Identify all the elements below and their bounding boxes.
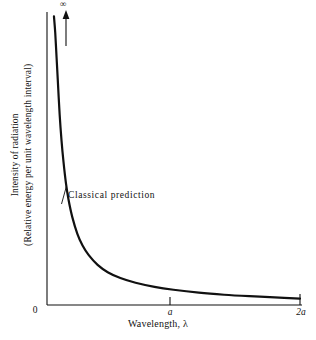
x-tick-label-0: 0 [28, 305, 42, 315]
x-axis-label: Wavelength, λ [0, 318, 316, 329]
infinity-symbol: ∞ [60, 0, 66, 9]
chart-plot-area [0, 0, 316, 340]
x-tick-label-a: a [163, 307, 177, 317]
x-tick-label-2a: 2a [292, 307, 310, 317]
annotation-leader-line [62, 186, 67, 204]
infinity-arrow-icon [63, 10, 70, 46]
figure-container: ∞ Intensity of radiation (Relative energ… [0, 0, 316, 340]
classical-prediction-curve [54, 16, 300, 298]
annotation-classical-prediction: Classical prediction [68, 190, 155, 200]
